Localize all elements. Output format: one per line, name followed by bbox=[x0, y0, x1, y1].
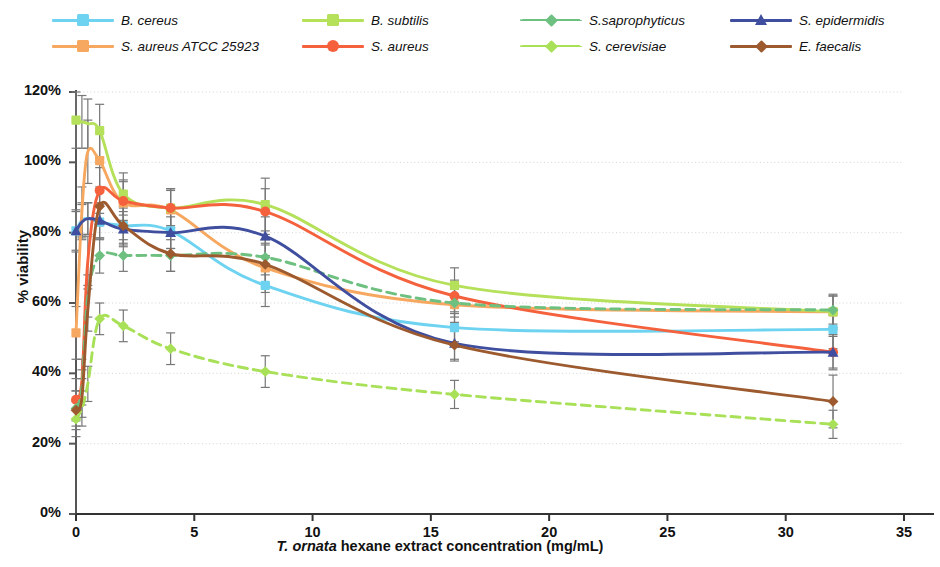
x-tick-label: 30 bbox=[766, 524, 806, 540]
x-axis-title-italic: T. ornata bbox=[277, 538, 337, 554]
data-point-s-saprophyticus bbox=[118, 250, 129, 261]
data-point-b-subtilis bbox=[71, 116, 80, 125]
data-point-s-aureus bbox=[118, 196, 128, 206]
x-tick-label: 15 bbox=[411, 524, 451, 540]
data-point-b-subtilis bbox=[450, 281, 459, 290]
data-point-s-aureus bbox=[95, 185, 105, 195]
y-tick-label: 60% bbox=[11, 293, 61, 309]
plot-area: % viability T. ornata hexane extract con… bbox=[0, 0, 940, 567]
series-b-subtilis bbox=[71, 116, 837, 317]
x-tick-label: 25 bbox=[647, 524, 687, 540]
data-point-s-cerevisiae bbox=[449, 389, 460, 400]
data-point-s-aureus-atcc-25923 bbox=[71, 328, 80, 337]
data-point-b-cereus bbox=[828, 325, 837, 334]
y-tick-label: 0% bbox=[11, 504, 61, 520]
x-tick-label: 20 bbox=[529, 524, 569, 540]
data-point-e-faecalis bbox=[165, 248, 176, 259]
x-tick-label: 35 bbox=[884, 524, 924, 540]
data-point-e-faecalis bbox=[828, 396, 839, 407]
data-point-s-cerevisiae bbox=[260, 366, 271, 377]
data-point-s-cerevisiae bbox=[118, 320, 129, 331]
data-point-s-aureus bbox=[260, 207, 270, 217]
data-point-s-cerevisiae bbox=[165, 343, 176, 354]
viability-line-chart-figure: B. cereusS. aureus ATCC 25923B. subtilis… bbox=[0, 0, 940, 567]
y-tick-label: 20% bbox=[11, 434, 61, 450]
data-point-b-cereus bbox=[450, 323, 459, 332]
y-tick-label: 40% bbox=[11, 363, 61, 379]
chart-svg bbox=[0, 0, 940, 567]
x-tick-label: 5 bbox=[174, 524, 214, 540]
data-point-b-subtilis bbox=[95, 126, 104, 135]
y-tick-label: 100% bbox=[11, 152, 61, 168]
y-tick-label: 80% bbox=[11, 223, 61, 239]
data-point-b-cereus bbox=[261, 281, 270, 290]
x-tick-label: 0 bbox=[56, 524, 96, 540]
x-tick-label: 10 bbox=[293, 524, 333, 540]
y-tick-label: 120% bbox=[11, 82, 61, 98]
x-axis-title: T. ornata hexane extract concentration (… bbox=[0, 538, 880, 554]
x-axis-title-rest: hexane extract concentration (mg/mL) bbox=[337, 538, 604, 554]
data-point-s-aureus bbox=[166, 203, 176, 213]
data-point-s-aureus-atcc-25923 bbox=[95, 156, 104, 165]
